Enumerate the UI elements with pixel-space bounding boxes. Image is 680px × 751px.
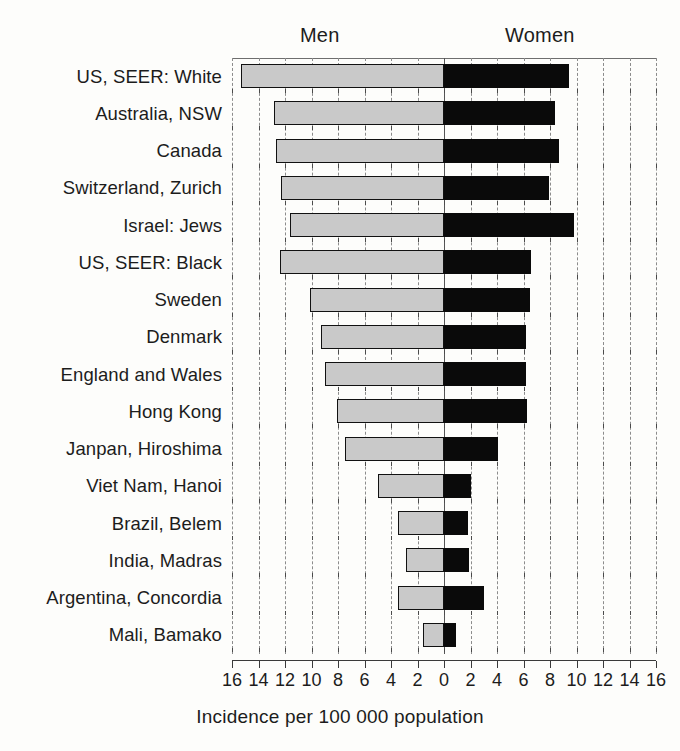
chart-row: US, SEER: Black [232,244,656,281]
row-tick [259,499,260,503]
row-tick [444,573,445,577]
row-tick [471,573,472,577]
row-tick [391,499,392,503]
row-tick [232,611,233,615]
row-tick [259,164,260,168]
row-tick [232,536,233,540]
row-tick [471,313,472,317]
row-tick [656,275,657,279]
bar-women [444,250,531,274]
row-tick [603,648,604,652]
row-tick [444,126,445,130]
row-tick [524,89,525,93]
bar-men [321,325,444,349]
row-tick [259,387,260,391]
row-tick [312,387,313,391]
row-tick [259,462,260,466]
row-tick [285,536,286,540]
row-tick [312,424,313,428]
bar-men [378,474,444,498]
axis-tick-label: 16 [646,670,666,691]
category-label: Denmark [146,326,222,348]
category-label: Switzerland, Zurich [63,177,222,199]
row-tick [630,275,631,279]
row-tick [232,387,233,391]
row-tick [444,387,445,391]
row-tick [630,573,631,577]
row-tick [497,275,498,279]
row-tick [497,89,498,93]
row-tick [656,201,657,205]
row-tick [312,611,313,615]
bar-women [444,213,574,237]
row-tick [418,573,419,577]
bar-women [444,511,468,535]
row-tick [550,424,551,428]
category-label: Brazil, Belem [112,513,222,535]
row-tick [524,313,525,317]
row-tick [418,313,419,317]
chart-container: Men Women US, SEER: WhiteAustralia, NSWC… [0,0,680,751]
row-tick [550,536,551,540]
row-tickmarks [232,89,656,94]
x-axis-title: Incidence per 100 000 population [0,706,680,728]
axis-tick-label: 14 [619,670,639,691]
row-tick [232,350,233,354]
row-tick [497,313,498,317]
row-tick [285,201,286,205]
row-tick [603,462,604,466]
row-tick [285,350,286,354]
row-tick [232,164,233,168]
row-tick [232,201,233,205]
row-tick [497,238,498,242]
row-tick [418,387,419,391]
axis-tick-label: 12 [593,670,613,691]
chart-row: Sweden [232,282,656,319]
row-tickmarks [232,238,656,243]
row-tick [577,462,578,466]
row-tick [471,499,472,503]
axis-tick-label: 4 [492,670,502,691]
row-tick [497,648,498,652]
row-tick [603,238,604,242]
x-axis: 1614121086420246810121416 [232,660,656,662]
row-tick [471,611,472,615]
row-tick [232,499,233,503]
row-tick [550,387,551,391]
axis-tick-label: 10 [301,670,321,691]
row-tick [232,573,233,577]
chart-row: Denmark [232,319,656,356]
row-tick [577,313,578,317]
row-tick [497,499,498,503]
row-tick [391,462,392,466]
bar-women [444,548,469,572]
axis-tick [444,661,445,668]
axis-tick [232,661,233,668]
category-label: US, SEER: White [77,66,222,88]
bar-men [290,213,444,237]
row-tick [232,89,233,93]
row-tick [418,499,419,503]
row-tick [285,164,286,168]
row-tick [285,499,286,503]
row-tick [577,201,578,205]
bar-men [241,64,444,88]
row-tick [285,573,286,577]
row-tick [285,611,286,615]
category-label: Israel: Jews [123,215,222,237]
row-tick [259,89,260,93]
row-tick [338,499,339,503]
row-tick [391,350,392,354]
row-tick [338,648,339,652]
row-tick [524,350,525,354]
category-label: India, Madras [109,550,222,572]
chart-row: Mali, Bamako [232,617,656,654]
category-label: Australia, NSW [95,103,222,125]
row-tick [312,499,313,503]
axis-tick-label: 6 [359,670,369,691]
legend-label-men: Men [300,24,340,47]
row-tick [603,387,604,391]
row-tick [259,350,260,354]
row-tick [391,126,392,130]
axis-tick-label: 0 [439,670,449,691]
